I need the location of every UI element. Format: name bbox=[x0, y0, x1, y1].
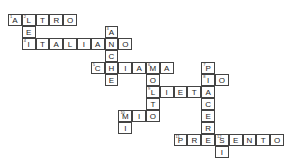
crossword-cell[interactable]: R bbox=[201, 122, 215, 134]
crossword-cell[interactable]: E bbox=[174, 86, 188, 98]
crossword-cell[interactable]: A1 bbox=[8, 14, 22, 26]
crossword-cell[interactable]: I bbox=[118, 122, 132, 134]
crossword-cell[interactable]: L9 bbox=[146, 86, 160, 98]
crossword-cell[interactable]: O bbox=[63, 14, 77, 26]
clue-number: 6 bbox=[148, 62, 150, 67]
crossword-cell[interactable]: O bbox=[215, 74, 229, 86]
crossword-cell[interactable]: E bbox=[229, 134, 243, 146]
crossword-cell[interactable]: C bbox=[105, 50, 119, 62]
crossword-cell[interactable]: M10 bbox=[118, 110, 132, 122]
crossword-cell[interactable]: L bbox=[63, 38, 77, 50]
crossword-cell[interactable]: T bbox=[187, 86, 201, 98]
crossword-cell[interactable]: S12 bbox=[215, 134, 229, 146]
crossword-cell[interactable]: T bbox=[36, 14, 50, 26]
crossword-cell[interactable]: I bbox=[118, 62, 132, 74]
crossword-cell[interactable]: P11 bbox=[174, 134, 188, 146]
crossword-cell[interactable]: E bbox=[201, 110, 215, 122]
crossword-cell[interactable]: P7 bbox=[201, 62, 215, 74]
crossword-cell[interactable]: O bbox=[146, 74, 160, 86]
crossword-cell[interactable]: A bbox=[160, 62, 174, 74]
crossword-cell[interactable]: H bbox=[105, 62, 119, 74]
crossword-cell[interactable]: O bbox=[270, 134, 284, 146]
crossword-cell[interactable]: E bbox=[22, 26, 36, 38]
crossword-board: A1L2TROEI4A3NCHETALIAOC5IAM6AOL9TOP7I8AC… bbox=[0, 0, 297, 161]
crossword-cell[interactable]: R bbox=[187, 134, 201, 146]
clue-number: 11 bbox=[176, 134, 180, 139]
crossword-cell[interactable]: A bbox=[132, 62, 146, 74]
crossword-cell[interactable]: C bbox=[201, 98, 215, 110]
crossword-cell[interactable]: I8 bbox=[201, 74, 215, 86]
clue-number: 9 bbox=[148, 86, 150, 91]
crossword-cell[interactable]: N bbox=[105, 38, 119, 50]
crossword-cell[interactable]: A bbox=[49, 38, 63, 50]
crossword-cell[interactable]: T bbox=[146, 98, 160, 110]
crossword-cell[interactable]: I bbox=[215, 146, 229, 158]
crossword-cell[interactable]: R bbox=[49, 14, 63, 26]
crossword-cell[interactable]: A bbox=[91, 38, 105, 50]
crossword-cell[interactable]: O bbox=[118, 38, 132, 50]
crossword-cell[interactable]: I bbox=[77, 38, 91, 50]
crossword-cell[interactable]: A bbox=[201, 86, 215, 98]
crossword-cell[interactable]: I bbox=[160, 86, 174, 98]
clue-number: 10 bbox=[120, 110, 124, 115]
clue-number: 5 bbox=[93, 62, 95, 67]
crossword-cell[interactable]: I bbox=[132, 110, 146, 122]
clue-number: 2 bbox=[24, 14, 26, 19]
crossword-cell[interactable]: O bbox=[146, 110, 160, 122]
crossword-cell[interactable]: I4 bbox=[22, 38, 36, 50]
crossword-cell[interactable]: E bbox=[105, 74, 119, 86]
clue-number: 3 bbox=[107, 26, 109, 31]
crossword-cell[interactable]: C5 bbox=[91, 62, 105, 74]
crossword-cell[interactable]: E bbox=[201, 134, 215, 146]
crossword-cell[interactable]: M6 bbox=[146, 62, 160, 74]
clue-number: 1 bbox=[10, 14, 12, 19]
clue-number: 4 bbox=[24, 38, 26, 43]
clue-number: 8 bbox=[203, 74, 205, 79]
crossword-cell[interactable]: L2 bbox=[22, 14, 36, 26]
crossword-cell[interactable]: T bbox=[36, 38, 50, 50]
clue-number: 12 bbox=[217, 134, 221, 139]
crossword-cell[interactable]: T bbox=[256, 134, 270, 146]
crossword-cell[interactable]: A3 bbox=[105, 26, 119, 38]
crossword-cell[interactable]: N bbox=[243, 134, 257, 146]
clue-number: 7 bbox=[203, 62, 205, 67]
